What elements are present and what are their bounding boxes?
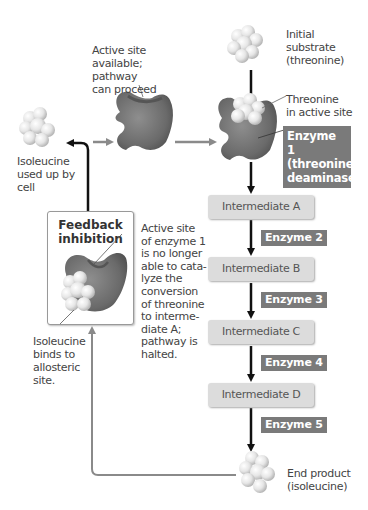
label-threonine-in-active-site: Threonine in active site: [286, 93, 352, 119]
enzyme1-label: Enzyme 1 (threonine deaminase): [283, 126, 351, 188]
enzyme1-line: Enzyme 1: [287, 129, 347, 157]
label-line: is no longer: [141, 248, 207, 261]
label-line: binds to: [33, 348, 85, 361]
inhibited-enzyme-icon: [48, 212, 133, 324]
label-line: cell: [17, 181, 75, 194]
label-active-site-blocked: Active site of enzyme 1 is no longer abl…: [141, 223, 207, 362]
intermediate-b-box: Intermediate B: [208, 257, 314, 281]
label-line: halted.: [141, 349, 207, 362]
label-line: available;: [92, 57, 157, 70]
intermediate-c-box: Intermediate C: [208, 320, 314, 344]
label-line: (isoleucine): [287, 480, 350, 493]
enzyme4-label: Enzyme 4: [261, 355, 327, 371]
label-line: allosteric: [33, 361, 85, 374]
enzyme1-line: deaminase): [287, 171, 347, 185]
feedback-inhibition-box: Feedback inhibition: [47, 211, 134, 325]
label-line: used up by: [17, 168, 75, 181]
label-line: Initial: [286, 28, 344, 41]
label-line: End product: [287, 467, 350, 480]
label-line: pathway: [92, 70, 157, 83]
intermediate-d-box: Intermediate D: [208, 383, 314, 407]
label-line: substrate: [286, 41, 344, 54]
threonine-molecule-icon: [227, 25, 263, 63]
free-enzyme-icon: [116, 92, 173, 150]
label-initial-substrate: Initial substrate (threonine): [286, 28, 344, 67]
label-line: site.: [33, 374, 85, 387]
label-line: in active site: [286, 106, 352, 119]
label-line: Isoleucine: [17, 155, 75, 168]
enzyme3-label: Enzyme 3: [261, 292, 327, 308]
label-end-product: End product (isoleucine): [287, 467, 350, 493]
label-line: Active site: [92, 44, 157, 57]
intermediate-a-box: Intermediate A: [208, 195, 314, 219]
label-line: conversion: [141, 286, 207, 299]
label-line: to interme-: [141, 311, 207, 324]
enzyme2-label: Enzyme 2: [261, 230, 327, 246]
isoleucine-used-molecule-icon: [19, 107, 55, 147]
label-isoleucine-binds: Isoleucine binds to allosteric site.: [33, 335, 85, 387]
label-line: Threonine: [286, 93, 352, 106]
enzyme1-bound-icon: [218, 93, 277, 160]
enzyme1-line: (threonine: [287, 157, 347, 171]
label-line: (threonine): [286, 54, 344, 67]
label-line: Active site: [141, 223, 207, 236]
label-isoleucine-used: Isoleucine used up by cell: [17, 155, 75, 194]
label-line: Isoleucine: [33, 335, 85, 348]
label-active-site-available: Active site available; pathway can proce…: [92, 44, 157, 96]
label-line: can proceed: [92, 83, 157, 96]
enzyme5-label: Enzyme 5: [261, 417, 327, 433]
isoleucine-end-product-icon: [239, 451, 275, 493]
